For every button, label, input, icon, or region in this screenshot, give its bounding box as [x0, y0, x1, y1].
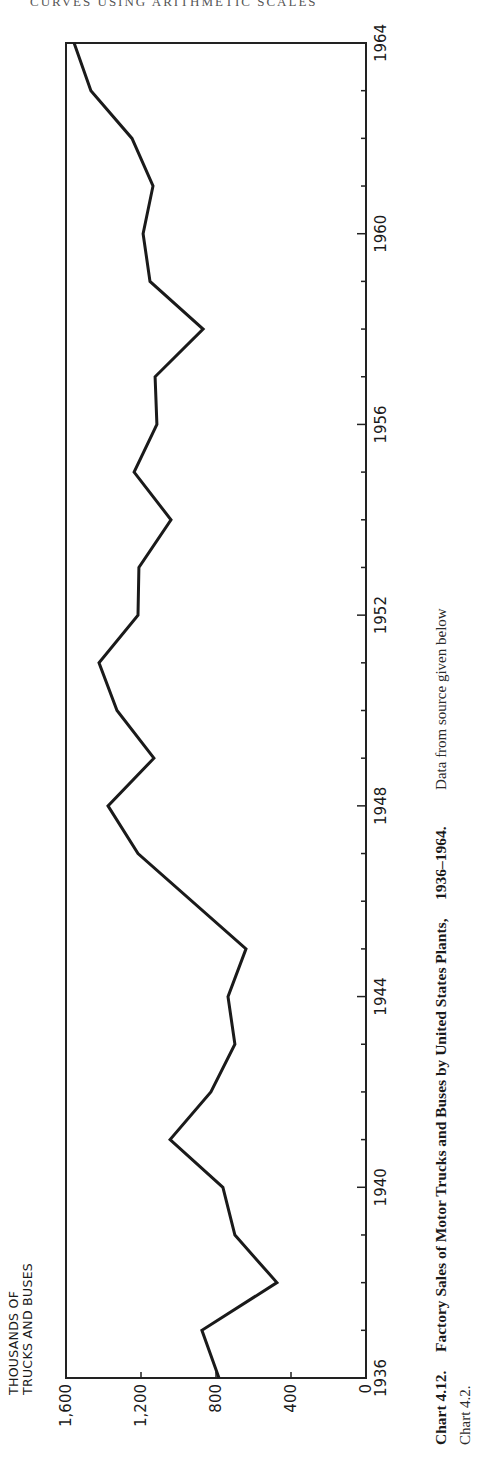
year-axis-ticks [357, 91, 366, 1331]
year-tick-label: 1960 [372, 215, 390, 253]
caption-number: Chart 4.12. [432, 1370, 449, 1445]
year-tick-label: 1956 [372, 405, 390, 443]
year-tick-label: 1952 [372, 596, 390, 634]
year-tick-label: 1944 [372, 977, 390, 1015]
caption-years: 1936–1964. [432, 826, 449, 900]
y-axis-title-line2: TRUCKS AND BUSES [20, 1263, 35, 1396]
sales-line [74, 43, 277, 1378]
year-tick-label: 1964 [372, 24, 390, 62]
caption-title: Factory Sales of Motor Trucks and Buses … [432, 918, 449, 1352]
value-tick-label: 1,600 [57, 1384, 75, 1427]
y-axis-title: THOUSANDS OF TRUCKS AND BUSES [6, 1263, 35, 1396]
value-axis-labels: 04008001,2001,600 [57, 1384, 375, 1427]
line-chart: 04008001,2001,600 1936194019441948195219… [0, 0, 485, 1466]
value-tick-label: 1,200 [132, 1384, 150, 1427]
year-axis-labels: 19361940194419481952195619601964 [372, 24, 390, 1397]
svg-text:Chart 4.12. Factory Sale: Chart 4.12. Factory Sales of Motor Truck… [432, 608, 449, 1445]
year-tick-label: 1936 [372, 1359, 390, 1397]
value-tick-label: 400 [282, 1384, 300, 1413]
caption-source: Data from source given below [433, 608, 449, 790]
value-tick-label: 800 [207, 1384, 225, 1413]
caption-source-line2: Chart 4.2. [457, 1385, 473, 1445]
year-tick-label: 1940 [372, 1168, 390, 1206]
y-axis-title-line1: THOUSANDS OF [6, 1291, 21, 1396]
figure-caption: Chart 4.12. Factory Sales of Motor Truck… [432, 608, 473, 1445]
plot-frame [66, 43, 366, 1378]
year-tick-label: 1948 [372, 787, 390, 825]
